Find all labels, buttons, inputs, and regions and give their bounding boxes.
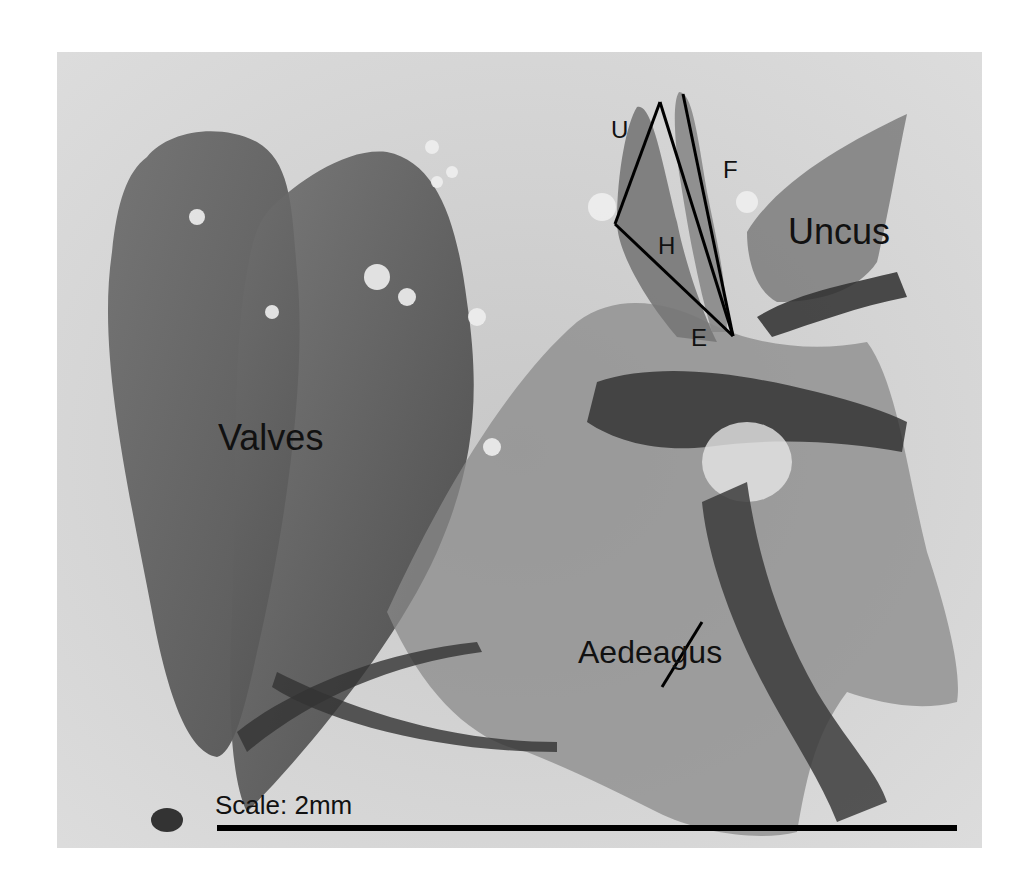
label-u: U	[611, 118, 628, 142]
label-e: E	[691, 326, 707, 350]
specimen-illustration	[57, 52, 982, 848]
label-aedeagus: Aedeagus	[578, 636, 722, 668]
specimen-photo	[57, 52, 982, 848]
label-uncus: Uncus	[788, 214, 890, 250]
label-valves: Valves	[218, 420, 323, 456]
label-f: F	[723, 158, 738, 182]
scale-label: Scale: 2mm	[215, 792, 352, 818]
scale-bar	[217, 825, 957, 831]
label-h: H	[658, 234, 675, 258]
